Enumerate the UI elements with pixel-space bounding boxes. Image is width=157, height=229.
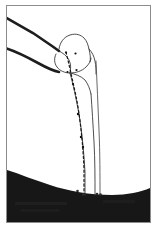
landmark-point-7 bbox=[80, 136, 82, 138]
landmark-point-10 bbox=[82, 193, 85, 196]
anatomical-tracing-figure bbox=[7, 6, 150, 222]
figure-frame bbox=[6, 5, 151, 223]
landmark-point-12 bbox=[99, 193, 102, 196]
landmark-point-6 bbox=[77, 113, 79, 115]
soft-tissue-shadow-texture-c bbox=[103, 200, 135, 203]
landmark-point-5 bbox=[72, 83, 74, 85]
landmark-point-3 bbox=[66, 71, 68, 73]
soft-tissue-shadow-texture-b bbox=[21, 209, 59, 212]
landmark-point-4 bbox=[75, 69, 77, 71]
screenshot-root bbox=[0, 0, 157, 229]
landmark-point-11 bbox=[96, 193, 99, 196]
landmark-point-9 bbox=[76, 190, 79, 193]
soft-tissue-shadow-texture-a bbox=[15, 202, 67, 205]
landmark-point-1 bbox=[65, 51, 67, 53]
landmark-point-8 bbox=[82, 146, 84, 148]
landmark-point-2 bbox=[74, 52, 76, 54]
